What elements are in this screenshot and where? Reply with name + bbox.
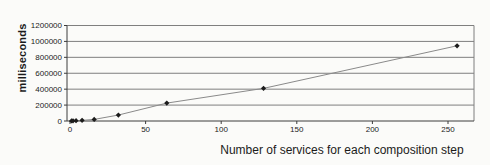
performance-chart: 0200000400000600000800000100000012000000…	[0, 0, 490, 165]
x-tick-label: 100	[215, 125, 229, 134]
x-tick-label: 0	[68, 125, 73, 134]
data-point-marker	[454, 43, 459, 48]
x-tick-label: 250	[441, 125, 455, 134]
y-axis-title: milliseconds	[16, 23, 28, 92]
x-axis-title: Number of services for each composition …	[220, 143, 463, 157]
y-tick-label: 1000000	[31, 37, 63, 46]
data-point-marker	[79, 118, 84, 123]
y-tick-label: 600000	[35, 69, 62, 78]
data-point-marker	[73, 118, 78, 123]
x-tick-label: 50	[141, 125, 150, 134]
y-tick-label: 800000	[35, 53, 62, 62]
x-tick-label: 200	[366, 125, 380, 134]
y-tick-label: 400000	[35, 85, 62, 94]
data-point-marker	[261, 86, 266, 91]
data-point-marker	[116, 112, 121, 117]
x-tick-label: 150	[290, 125, 304, 134]
y-tick-label: 1200000	[31, 21, 63, 30]
y-tick-label: 0	[58, 117, 63, 126]
chart-canvas: 0200000400000600000800000100000012000000…	[0, 0, 490, 165]
y-tick-label: 200000	[35, 101, 62, 110]
